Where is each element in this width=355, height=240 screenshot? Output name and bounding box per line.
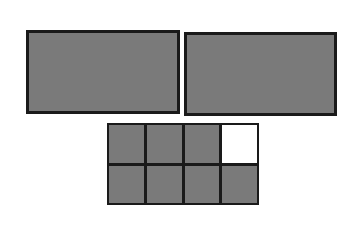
- grid-cell-shaded: [185, 125, 220, 163]
- fraction-grid: [107, 123, 259, 205]
- grid-cell-shaded: [109, 166, 144, 204]
- grid-cell-shaded: [185, 166, 220, 204]
- whole-rectangle-left: [26, 30, 180, 114]
- grid-cell-shaded: [147, 166, 182, 204]
- grid-cell-shaded: [147, 125, 182, 163]
- grid-cell-shaded: [109, 125, 144, 163]
- grid-cell-shaded: [222, 166, 257, 204]
- grid-cell-unshaded: [222, 125, 257, 163]
- whole-rectangle-right: [184, 32, 337, 116]
